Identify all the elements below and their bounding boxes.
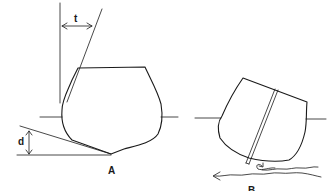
panel-a: t d A: [17, 3, 178, 176]
flare-tangent-line: [67, 9, 102, 102]
flow-wave-lower: [214, 173, 321, 177]
hull-a-outline: [62, 67, 162, 154]
hull-sections-diagram: t d A: [0, 0, 327, 191]
panel-b-label: B: [248, 185, 255, 191]
vortex-curl-arrow: [257, 164, 275, 169]
centerboard: [246, 89, 278, 164]
d-label: d: [18, 136, 24, 147]
t-label: t: [74, 13, 78, 24]
panel-a-label: A: [108, 165, 115, 176]
d-dimension-arrow: [26, 131, 32, 154]
panel-b: B: [195, 78, 326, 191]
